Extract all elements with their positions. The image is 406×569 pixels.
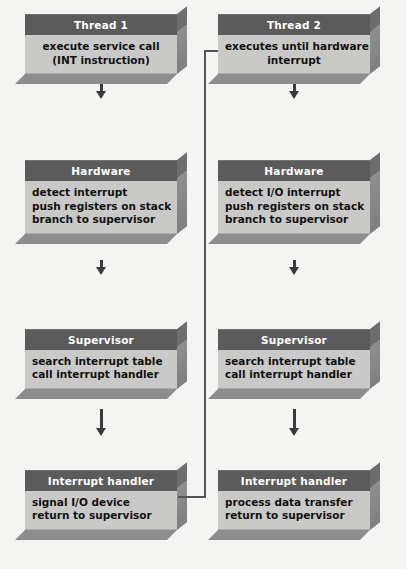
node-header: Interrupt handler [218,470,370,491]
node-body-line: push registers on stack [225,200,363,214]
node-body-line: return to supervisor [32,509,170,523]
arrow-head-icon [289,267,299,275]
node-supervisor-left-1: Supervisor search interrupt table call i… [25,329,177,389]
node-interrupt-handler-right: Interrupt handler process data transfer … [218,470,370,530]
node-body-line: branch to supervisor [225,213,363,227]
node-interrupt-handler-left: Interrupt handler signal I/O device retu… [25,470,177,530]
node-body: signal I/O device return to supervisor [25,491,177,530]
node-body: process data transfer return to supervis… [218,491,370,530]
node-body: executes until hardware interrupt [218,35,370,74]
node-hardware-right: Hardware detect I/O interrupt push regis… [218,160,370,234]
node-body-line: search interrupt table [225,355,363,369]
arrow-head-icon [96,428,106,436]
node-body-line: executes until hardware [225,40,363,54]
node-header: Thread 1 [25,14,177,35]
connector-segment-vertical [204,50,206,498]
node-header: Interrupt handler [25,470,177,491]
arrow-connector [293,409,296,429]
node-header: Hardware [25,160,177,181]
node-body-line: detect interrupt [32,186,170,200]
node-header: Supervisor [218,329,370,350]
node-body-line: return to supervisor [225,509,363,523]
node-body-line: branch to supervisor [32,213,170,227]
node-header: Hardware [218,160,370,181]
node-header: Thread 2 [218,14,370,35]
thread-switch-diagram: Thread 1 execute service call (INT instr… [0,0,406,569]
node-thread-2-start: Thread 2 executes until hardware interru… [218,14,370,74]
node-body-line: detect I/O interrupt [225,186,363,200]
node-header: Supervisor [25,329,177,350]
arrow-head-icon [289,91,299,99]
node-hardware-left: Hardware detect interrupt push registers… [25,160,177,234]
node-body: detect I/O interrupt push registers on s… [218,181,370,234]
node-body: detect interrupt push registers on stack… [25,181,177,234]
node-body-line: interrupt [225,54,363,68]
arrow-head-icon [96,267,106,275]
node-body-line: push registers on stack [32,200,170,214]
arrow-connector [100,409,103,429]
node-body: search interrupt table call interrupt ha… [25,350,177,389]
node-body-line: (INT instruction) [32,54,170,68]
node-body-line: execute service call [32,40,170,54]
node-body-line: process data transfer [225,496,363,510]
node-body-line: call interrupt handler [225,368,363,382]
node-body-line: search interrupt table [32,355,170,369]
node-thread-1-start: Thread 1 execute service call (INT instr… [25,14,177,74]
connector-segment-bottom [178,496,206,498]
node-body-line: signal I/O device [32,496,170,510]
arrow-head-icon [289,428,299,436]
column-thread-2: Thread 2 executes until hardware interru… [214,0,400,569]
arrow-head-icon [96,91,106,99]
node-body: search interrupt table call interrupt ha… [218,350,370,389]
node-body: execute service call (INT instruction) [25,35,177,74]
column-thread-1: Thread 1 execute service call (INT instr… [21,0,207,569]
node-body-line: call interrupt handler [32,368,170,382]
node-supervisor-right-1: Supervisor search interrupt table call i… [218,329,370,389]
